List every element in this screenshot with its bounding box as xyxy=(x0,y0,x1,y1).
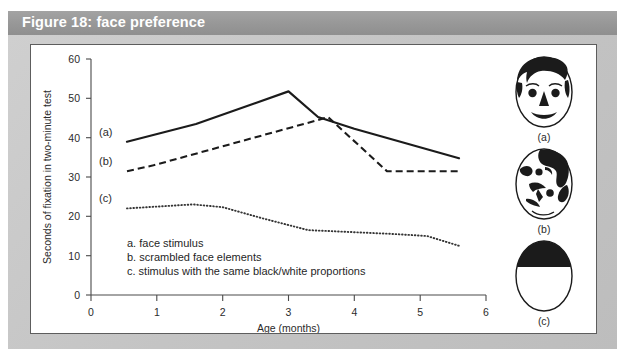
y-tick-label: 0 xyxy=(74,289,80,301)
curve-tag-b: (b) xyxy=(99,155,112,167)
stimulus-a: (a) xyxy=(496,53,592,145)
figure-container: Figure 18: face preference xyxy=(0,0,625,357)
legend-entry-c: c. stimulus with the same black/white pr… xyxy=(127,265,366,277)
x-axis-title: Age (months) xyxy=(257,322,320,333)
curve-tag-c: (c) xyxy=(99,192,112,204)
x-axis-ticks xyxy=(91,295,486,301)
y-tick-label: 10 xyxy=(68,250,80,262)
stimulus-caption-c: (c) xyxy=(496,315,592,327)
stimulus-c: (c) xyxy=(496,237,592,329)
x-axis-tick-labels: 0 1 2 3 4 5 6 xyxy=(88,306,489,318)
y-tick-label: 30 xyxy=(68,171,80,183)
y-axis-ticks xyxy=(86,59,91,295)
curve-tag-a: (a) xyxy=(99,126,112,138)
x-tick-label: 0 xyxy=(88,306,94,318)
x-tick-label: 6 xyxy=(483,306,489,318)
legend-entry-b: b. scrambled face elements xyxy=(127,251,262,263)
stimulus-caption-a: (a) xyxy=(496,131,592,143)
figure-title: Figure 18: face preference xyxy=(22,14,205,30)
x-tick-label: 5 xyxy=(417,306,423,318)
y-tick-label: 40 xyxy=(68,132,80,144)
x-tick-label: 1 xyxy=(154,306,160,318)
x-tick-label: 4 xyxy=(351,306,357,318)
face-halfblack-icon xyxy=(510,237,578,313)
stimulus-b: (b) xyxy=(496,145,592,237)
x-tick-label: 3 xyxy=(286,306,292,318)
y-tick-label: 20 xyxy=(68,210,80,222)
stimulus-column: (a) xyxy=(496,53,592,331)
y-tick-label: 50 xyxy=(68,92,80,104)
chart-legend: a. face stimulus b. scrambled face eleme… xyxy=(127,237,366,277)
chart-panel: 0 10 20 30 40 50 60 xyxy=(30,44,597,334)
legend-entry-a: a. face stimulus xyxy=(127,237,204,249)
y-axis-title: Seconds of fixation in two-minute test xyxy=(41,90,53,264)
x-tick-label: 2 xyxy=(220,306,226,318)
series-line-a xyxy=(127,91,459,158)
stimulus-caption-b: (b) xyxy=(496,223,592,235)
y-tick-label: 60 xyxy=(68,53,80,65)
y-axis-tick-labels: 0 10 20 30 40 50 60 xyxy=(68,53,80,301)
face-scrambled-icon xyxy=(510,145,578,221)
figure-frame: 0 10 20 30 40 50 60 xyxy=(8,35,617,349)
face-normal-icon xyxy=(510,53,578,129)
